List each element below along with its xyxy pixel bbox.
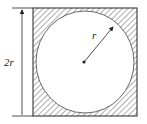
diagram-canvas: 2r r bbox=[0, 0, 147, 124]
center-point bbox=[82, 60, 85, 63]
side-label: 2r bbox=[4, 56, 15, 68]
radius-label: r bbox=[92, 29, 97, 41]
